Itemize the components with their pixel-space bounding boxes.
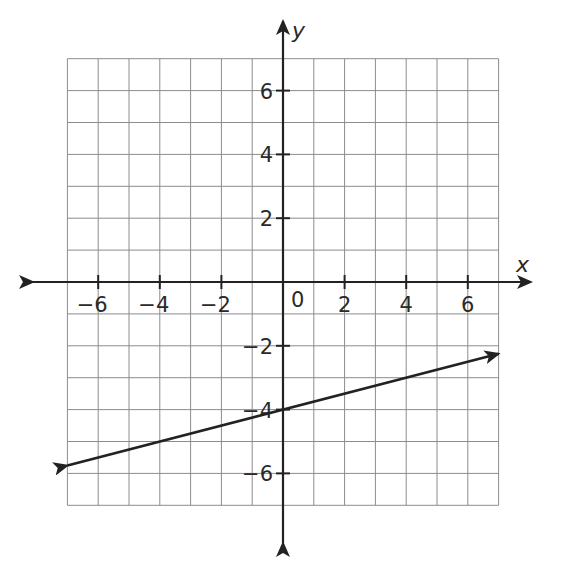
x-tick-label: 4 [400, 293, 413, 317]
x-tick-label: 2 [338, 293, 351, 317]
y-tick-label: 2 [260, 207, 273, 231]
x-tick-label: −2 [200, 293, 231, 317]
y-tick-label: −2 [242, 335, 273, 359]
x-tick-label: −4 [138, 293, 169, 317]
y-tick-label: −6 [242, 462, 273, 486]
axes [33, 21, 531, 543]
y-tick-label: 4 [260, 143, 273, 167]
origin-label: 0 [291, 288, 304, 312]
y-tick-label: 6 [260, 80, 273, 104]
x-tick-label: −6 [77, 293, 108, 317]
x-tick-label: 6 [461, 293, 474, 317]
y-axis-label: y [291, 18, 306, 43]
x-axis-label: x [515, 252, 530, 277]
coordinate-plane: −6−4−2246−6−4−2246 x y 0 [0, 0, 565, 570]
